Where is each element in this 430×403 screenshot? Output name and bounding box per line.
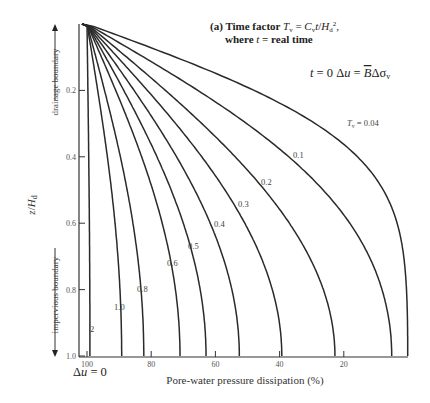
isochrone-curve [82,24,144,356]
curve-label: 0.1 [293,150,304,160]
y-axis-title: z/Hd [25,195,39,215]
isochrone-curve [82,24,90,356]
impervious-boundary-indicator: impervious boundary [50,248,60,357]
drainage-boundary-label: drainage boundary [50,48,60,116]
curve-label: 2 [90,324,94,334]
curve-label: 1.0 [114,302,125,312]
initial-condition: t = 0 Δu = BΔσv [310,66,390,81]
x-tick-label: 60 [211,360,219,369]
curve-label: 0.2 [261,177,272,187]
curve-label: 0.6 [167,258,178,268]
y-ticks: 0.20.40.60.81.0 [66,86,85,361]
arrow-up-icon [52,24,58,31]
curve-label: 0.3 [238,199,249,209]
y-tick-label: 0.6 [66,219,76,228]
chart-subtitle: where t = real time [225,33,313,45]
arrow-down-icon [52,350,58,357]
isochrone-curve [82,24,180,356]
x-tick-label: 80 [147,360,155,369]
chart-title: (a) Time factor Tv = Cvt/Hd2, [210,20,339,34]
y-tick-label: 1.0 [66,352,76,361]
drainage-boundary-indicator: drainage boundary [50,24,60,116]
curve-label: Tv = 0.04 [347,118,379,129]
curve-label: 0.8 [137,284,148,294]
x-origin-label: Δu = 0 [73,365,107,379]
x-axis-title: Pore-water pressure dissipation (%) [166,374,324,387]
x-tick-label: 40 [276,360,284,369]
consolidation-isochrones-chart: (a) Time factor Tv = Cvt/Hd2, where t = … [0,0,430,403]
impervious-boundary-label: impervious boundary [50,256,60,333]
curve-label: 0.5 [188,241,199,251]
y-tick-label: 0.4 [66,153,76,162]
title-prefix: (a) Time factor [210,20,283,33]
curve-label: 0.4 [214,219,225,229]
y-tick-label: 0.8 [66,286,76,295]
y-tick-label: 0.2 [66,86,76,95]
x-tick-label: 20 [340,360,348,369]
